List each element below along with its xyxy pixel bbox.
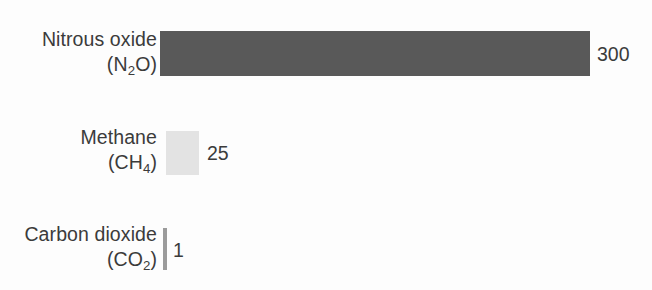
- category-formula-line: (CH4): [108, 151, 157, 173]
- formula-suffix: ): [150, 151, 157, 173]
- formula-suffix: O): [135, 53, 157, 75]
- category-formula-line: (N2O): [107, 53, 157, 75]
- category-formula-line: (CO2): [107, 248, 157, 270]
- chart-row-methane: Methane (CH4) 25: [0, 118, 652, 188]
- bar-methane: [166, 131, 199, 175]
- chart-row-nitrous-oxide: Nitrous oxide (N2O) 300: [0, 18, 652, 90]
- formula-prefix: (CO: [107, 248, 143, 270]
- category-label-carbon-dioxide: Carbon dioxide (CO2): [0, 222, 157, 272]
- greenhouse-gas-bar-chart: Nitrous oxide (N2O) 300 Methane (CH4) 25…: [0, 0, 652, 290]
- category-name-line: Carbon dioxide: [0, 222, 157, 247]
- bar-value-nitrous-oxide: 300: [597, 43, 630, 65]
- category-label-nitrous-oxide: Nitrous oxide (N2O): [0, 27, 157, 77]
- formula-prefix: (CH: [108, 151, 143, 173]
- chart-row-carbon-dioxide: Carbon dioxide (CO2) 1: [0, 215, 652, 285]
- bar-carbon-dioxide: [163, 228, 167, 270]
- category-name-line: Methane: [0, 125, 157, 150]
- category-label-methane: Methane (CH4): [0, 125, 157, 175]
- bar-value-carbon-dioxide: 1: [173, 239, 184, 261]
- formula-suffix: ): [150, 248, 157, 270]
- formula-prefix: (N: [107, 53, 128, 75]
- bar-value-methane: 25: [207, 142, 229, 164]
- bar-nitrous-oxide: [160, 31, 590, 76]
- formula-subscript: 2: [128, 63, 135, 78]
- category-name-line: Nitrous oxide: [0, 27, 157, 52]
